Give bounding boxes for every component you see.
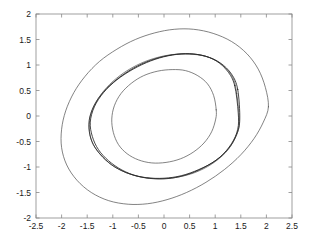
x-tick-label-4: -0.5 (131, 221, 146, 231)
y-tick-label-0: -2 (23, 213, 31, 223)
x-tick-label-1: -2 (58, 221, 66, 231)
x-tick-label-2: -1.5 (80, 221, 95, 231)
x-tick-label-9: 2 (264, 221, 269, 231)
y-tick-label-6: 1 (26, 60, 31, 70)
chart-figure: -2.5-2-1.5-1-0.500.511.522.5 -2-1.5-1-0.… (0, 0, 311, 249)
y-tick-label-8: 2 (26, 9, 31, 19)
x-tick-label-10: 2.5 (286, 221, 298, 231)
y-tick-label-5: 0.5 (19, 86, 31, 96)
x-tick-label-8: 1.5 (235, 221, 247, 231)
y-tick-label-4: 0 (26, 111, 31, 121)
phase-portrait-plot: -2.5-2-1.5-1-0.500.511.522.5 -2-1.5-1-0.… (0, 0, 311, 249)
plot-background (0, 0, 311, 249)
y-tick-label-1: -1.5 (16, 188, 31, 198)
x-tick-label-7: 1 (213, 221, 218, 231)
x-tick-label-5: 0 (162, 221, 167, 231)
x-tick-label-6: 0.5 (184, 221, 196, 231)
y-tick-label-7: 1.5 (19, 35, 31, 45)
x-tick-label-3: -1 (109, 221, 117, 231)
y-tick-label-3: -0.5 (16, 137, 31, 147)
y-tick-label-2: -1 (23, 162, 31, 172)
